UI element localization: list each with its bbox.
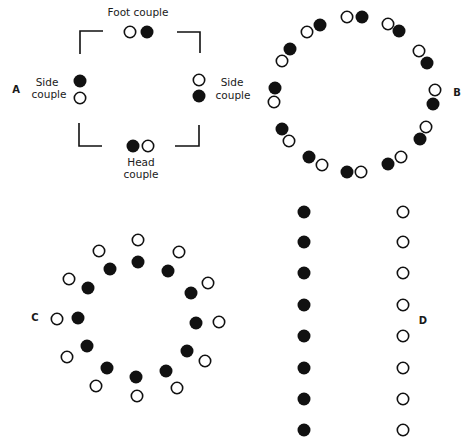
filled-dot-man <box>421 57 434 70</box>
square-dance-formations-figure: A B C D Foot couple Side couple Side cou… <box>0 0 472 446</box>
open-dot-woman <box>213 316 224 327</box>
filled-dot-man <box>393 25 406 38</box>
filled-dot-man <box>382 158 395 171</box>
filled-dot-man <box>72 312 85 325</box>
open-dot-woman <box>199 355 210 366</box>
head-couple-label-line1: Head <box>127 157 154 168</box>
panel-a-square-set-dots <box>74 26 206 153</box>
open-dot-woman <box>301 26 312 37</box>
panel-d-two-lines-dots <box>298 206 409 437</box>
panel-letter-a: A <box>12 84 20 95</box>
corner-bracket <box>177 32 200 53</box>
open-dot-woman <box>397 299 408 310</box>
open-dot-woman <box>268 96 279 107</box>
filled-dot-man <box>298 330 311 343</box>
filled-dot-man <box>341 166 354 179</box>
open-dot-woman <box>397 267 408 278</box>
filled-dot-man <box>185 287 198 300</box>
filled-dot-man <box>314 19 327 32</box>
filled-dot-man <box>74 75 87 88</box>
panel-b-circle-couples-dots <box>268 11 440 179</box>
open-dot-woman <box>51 313 62 324</box>
filled-dot-man <box>298 267 311 280</box>
filled-dot-man <box>193 90 206 103</box>
open-dot-woman <box>63 273 74 284</box>
open-dot-woman <box>173 246 184 257</box>
panel-c-double-circle-dots <box>51 234 224 401</box>
open-dot-woman <box>124 26 135 37</box>
filled-dot-man <box>101 362 114 375</box>
filled-dot-man <box>130 371 143 384</box>
open-dot-woman <box>276 55 287 66</box>
open-dot-woman <box>193 74 204 85</box>
head-couple-label-line2: couple <box>124 169 159 180</box>
open-dot-woman <box>397 236 408 247</box>
open-dot-woman <box>93 245 104 256</box>
open-dot-woman <box>341 11 352 22</box>
foot-couple-label: Foot couple <box>108 7 169 18</box>
open-dot-woman <box>202 277 213 288</box>
side-couple-left-label-line2: couple <box>32 89 67 100</box>
open-dot-woman <box>283 135 294 146</box>
filled-dot-man <box>276 123 289 136</box>
open-dot-woman <box>397 206 408 217</box>
filled-dot-man <box>298 299 311 312</box>
filled-dot-man <box>298 362 311 375</box>
panel-letter-d: D <box>419 315 427 326</box>
side-couple-left-label-line1: Side <box>36 77 59 88</box>
panel-letter-b: B <box>453 87 461 98</box>
corner-bracket <box>80 31 103 54</box>
filled-dot-man <box>160 365 173 378</box>
filled-dot-man <box>414 133 427 146</box>
filled-dot-man <box>284 43 297 56</box>
corner-bracket <box>175 125 199 146</box>
filled-dot-man <box>303 151 316 164</box>
filled-dot-man <box>190 317 203 330</box>
filled-dot-man <box>81 340 94 353</box>
filled-dot-man <box>298 393 311 406</box>
corner-bracket <box>79 123 102 146</box>
open-dot-woman <box>171 382 182 393</box>
open-dot-woman <box>397 424 408 435</box>
open-dot-woman <box>382 18 393 29</box>
open-dot-woman <box>395 151 406 162</box>
open-dot-woman <box>74 92 85 103</box>
filled-dot-man <box>104 263 117 276</box>
filled-dot-man <box>269 82 282 95</box>
open-dot-woman <box>142 140 153 151</box>
open-dot-woman <box>397 393 408 404</box>
filled-dot-man <box>162 265 175 278</box>
filled-dot-man <box>427 98 440 111</box>
filled-dot-man <box>181 345 194 358</box>
open-dot-woman <box>355 166 366 177</box>
side-couple-right-label-line1: Side <box>221 77 244 88</box>
filled-dot-man <box>141 26 154 39</box>
panel-letter-c: C <box>31 312 38 323</box>
filled-dot-man <box>298 424 311 437</box>
open-dot-woman <box>61 351 72 362</box>
filled-dot-man <box>82 282 95 295</box>
square-set-corner-brackets <box>79 31 200 146</box>
open-dot-woman <box>420 121 431 132</box>
open-dot-woman <box>413 45 424 56</box>
open-dot-woman <box>429 84 440 95</box>
open-dot-woman <box>316 159 327 170</box>
open-dot-woman <box>131 390 142 401</box>
filled-dot-man <box>127 140 140 153</box>
open-dot-woman <box>397 362 408 373</box>
filled-dot-man <box>132 256 145 269</box>
filled-dot-man <box>298 206 311 219</box>
side-couple-right-label-line2: couple <box>216 90 251 101</box>
filled-dot-man <box>356 11 369 24</box>
open-dot-woman <box>397 330 408 341</box>
filled-dot-man <box>298 236 311 249</box>
open-dot-woman <box>132 234 143 245</box>
open-dot-woman <box>90 380 101 391</box>
formations-diagram <box>0 0 472 446</box>
